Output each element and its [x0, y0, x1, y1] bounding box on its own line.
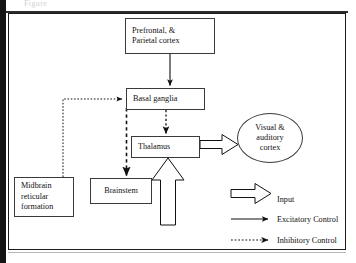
node-brainstem-label: Brainstem	[104, 186, 138, 197]
edge-thalamus-to-cortex-block-arrow	[200, 135, 238, 155]
legend-label-input: Input	[277, 195, 294, 204]
diagram-page: Figure	[0, 0, 356, 263]
node-visual-auditory-cortex: Visual & auditory cortex	[237, 113, 303, 163]
node-basal-ganglia-label: Basal ganglia	[127, 94, 177, 105]
node-basal-ganglia: Basal ganglia	[126, 88, 205, 110]
node-brainstem: Brainstem	[90, 178, 152, 204]
legend-label-excitatory-control: Excitatory Control	[277, 215, 338, 224]
node-thalamus: Thalamus	[131, 136, 200, 158]
edge-input-to-thalamus-block-arrow	[152, 158, 184, 225]
node-visual-auditory-cortex-label: Visual & auditory cortex	[255, 123, 284, 153]
legend-input-glyph	[231, 184, 271, 204]
node-prefrontal-label: Prefrontal, & Parietal cortex	[126, 26, 180, 47]
node-midbrain-reticular-formation: Midbrain reticular formation	[14, 177, 74, 217]
node-prefrontal-parietal-cortex: Prefrontal, & Parietal cortex	[125, 18, 215, 54]
node-thalamus-label: Thalamus	[132, 142, 170, 153]
legend-label-inhibitory-control: Inhibitory Control	[277, 236, 337, 245]
node-midbrain-label: Midbrain reticular formation	[15, 181, 53, 213]
edge-midbrain-to-basal	[63, 99, 122, 177]
